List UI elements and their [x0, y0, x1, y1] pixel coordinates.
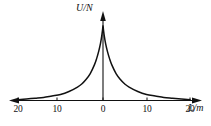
y-axis-title: U/N [76, 3, 93, 13]
data-curve [18, 26, 190, 100]
x-tick-label-zero: 0 [101, 105, 106, 115]
y-axis-top-arrowhead [100, 11, 106, 21]
graph-figure: U/N L/m 20 10 0 10 20 [0, 0, 211, 126]
x-tick-label-plus20: 20 [185, 105, 194, 115]
x-tick-label-minus10: 10 [52, 105, 61, 115]
x-tick-label-plus10: 10 [142, 105, 151, 115]
x-tick-label-minus20: 20 [13, 105, 22, 115]
